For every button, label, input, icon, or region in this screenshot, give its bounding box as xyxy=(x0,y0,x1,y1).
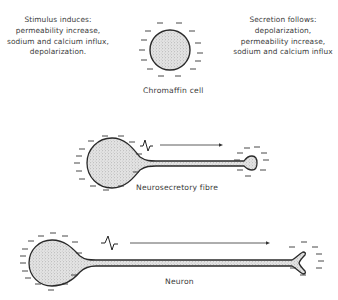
chromaffin-cell-label: Chromaffin cell xyxy=(143,86,204,95)
note-line: permeability increase, xyxy=(223,37,338,48)
note-line: depolarization. xyxy=(0,47,116,58)
neuron-label: Neuron xyxy=(165,277,194,286)
stimulus-note: Stimulus induces: permeability increase,… xyxy=(0,15,116,58)
note-line: Secretion follows: xyxy=(223,15,338,26)
note-line: sodium and calcium influx, xyxy=(0,37,116,48)
neurosecretory-soma-and-axon xyxy=(87,138,257,188)
note-line: sodium and calcium influx xyxy=(223,47,338,58)
chromaffin-cell xyxy=(139,23,203,76)
note-line: Stimulus induces: xyxy=(0,15,116,26)
note-line: depolarization, xyxy=(223,26,338,37)
action-potential-spike-icon xyxy=(101,236,118,250)
note-line: permeability increase, xyxy=(0,26,116,37)
neurosecretory-fibre-label: Neurosecretory fibre xyxy=(136,183,218,192)
neurosecretory-fibre xyxy=(74,136,269,190)
arrow-head-icon xyxy=(219,143,223,146)
secretion-note: Secretion follows: depolarization, perme… xyxy=(223,15,338,58)
arrow-head-icon xyxy=(266,241,270,244)
action-potential-spike-icon xyxy=(140,140,153,151)
chromaffin-cell-body xyxy=(150,30,190,70)
